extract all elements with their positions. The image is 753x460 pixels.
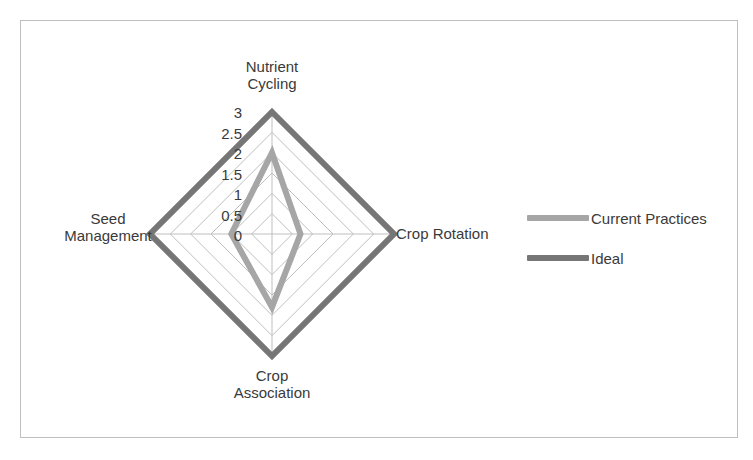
category-label-nutrient-cycling: Nutrient Cycling xyxy=(212,58,332,93)
r-tick-0p5: 0.5 xyxy=(198,208,242,223)
radar-chart: 3 2.5 2 1.5 1 0.5 0 Nutrient Cycling Cro… xyxy=(0,0,753,460)
r-tick-1p5: 1.5 xyxy=(198,167,242,182)
r-tick-3: 3 xyxy=(198,105,242,120)
legend-swatch-ideal xyxy=(527,255,589,261)
legend-label-current-practices: Current Practices xyxy=(591,210,707,227)
legend-item-current-practices: Current Practices xyxy=(527,198,717,238)
legend-item-ideal: Ideal xyxy=(527,238,717,278)
category-label-crop-rotation: Crop Rotation xyxy=(396,225,546,242)
category-label-crop-association: Crop Association xyxy=(212,367,332,402)
r-tick-0: 0 xyxy=(198,228,242,243)
chart-legend: Current Practices Ideal xyxy=(527,198,717,278)
r-tick-2p5: 2.5 xyxy=(198,126,242,141)
legend-swatch-current-practices xyxy=(527,215,589,221)
r-tick-2: 2 xyxy=(198,146,242,161)
category-label-seed-management: Seed Management xyxy=(46,210,170,245)
legend-label-ideal: Ideal xyxy=(591,250,624,267)
r-tick-1: 1 xyxy=(198,187,242,202)
